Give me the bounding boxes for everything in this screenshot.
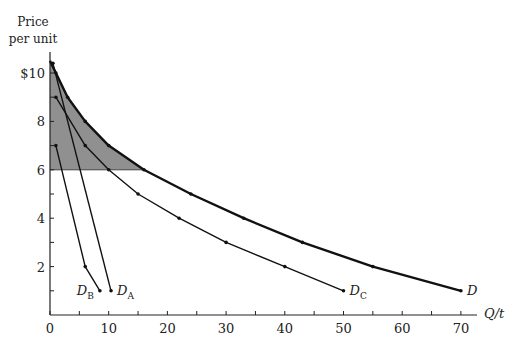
data-point	[107, 168, 111, 172]
data-point	[109, 289, 113, 293]
data-point	[83, 120, 87, 124]
data-point	[83, 265, 87, 269]
data-point	[98, 289, 102, 293]
curve-d	[50, 61, 461, 291]
x-axis-label: Q/t	[484, 306, 504, 321]
curve-label-d-c: DC	[349, 283, 367, 301]
x-tick-label: 20	[159, 321, 176, 336]
data-point	[51, 62, 55, 66]
curve-d-a	[53, 63, 111, 290]
data-point	[342, 289, 346, 293]
y-axis-label-line1: Price	[2, 14, 64, 31]
x-tick-label: 40	[277, 321, 294, 336]
data-point	[83, 144, 87, 148]
x-tick-label: 30	[218, 321, 235, 336]
y-axis-label: Price per unit	[2, 14, 64, 48]
data-point	[54, 144, 58, 148]
curve-d-c	[56, 97, 344, 291]
demand-chart: 010203040506070$108642DDADBDC	[0, 0, 527, 351]
data-point	[224, 241, 228, 245]
data-point	[142, 168, 146, 172]
data-point	[54, 95, 58, 99]
data-point	[301, 241, 305, 245]
y-tick-label: 4	[37, 211, 45, 226]
data-point	[283, 265, 287, 269]
y-axis-label-line2: per unit	[2, 31, 64, 48]
data-point	[459, 289, 463, 293]
y-tick-label: 6	[37, 163, 45, 178]
curve-label-d-b: DB	[76, 283, 94, 301]
data-point	[136, 192, 140, 196]
x-tick-label: 10	[100, 321, 117, 336]
data-point	[189, 192, 193, 196]
y-tick-label: $10	[20, 66, 45, 81]
data-point	[107, 144, 111, 148]
data-point	[66, 95, 70, 99]
data-point	[177, 216, 181, 220]
x-tick-label: 70	[453, 321, 470, 336]
x-tick-label: 0	[46, 321, 54, 336]
y-tick-label: 8	[37, 114, 45, 129]
x-tick-label: 50	[335, 321, 352, 336]
curve-label-d-a: DA	[116, 283, 134, 301]
y-tick-label: 2	[37, 260, 45, 275]
data-point	[242, 216, 246, 220]
curve-label-d: D	[466, 283, 478, 298]
x-tick-label: 60	[394, 321, 411, 336]
consumer-surplus-area	[50, 61, 144, 170]
data-point	[371, 265, 375, 269]
